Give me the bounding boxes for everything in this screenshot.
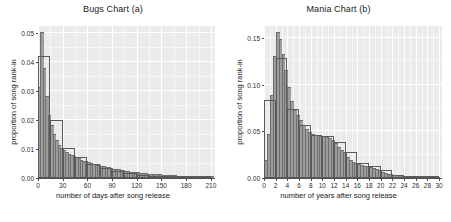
histogram-bar-outline [50,120,62,178]
x-tick-mark [112,179,113,181]
x-tick-mark [381,179,382,181]
histogram-bar-outline [299,125,311,178]
chart-title-mania: Mania Chart (b) [226,4,451,14]
chart-title-bugs: Bugs Chart (a) [0,4,226,14]
x-tick-label: 16 [354,182,361,189]
y-tick-mark [36,120,38,121]
histogram-bar-outline [369,166,381,178]
histogram-bar-outline [264,100,276,178]
x-tick-mark [322,179,323,181]
y-tick-mark [36,62,38,63]
x-tick-mark [392,179,393,181]
y-tick-mark [36,91,38,92]
x-tick-mark [287,179,288,181]
y-tick-label: 0.03 [21,88,34,95]
y-tick-label: 0.00 [21,175,34,182]
histogram-bar-outline [63,148,75,178]
x-tick-label: 2 [274,182,278,189]
histogram-bar-outline [311,135,323,178]
x-tick-mark [346,179,347,181]
x-tick-label: 180 [181,182,192,189]
histogram-bar-outline [75,157,87,178]
x-axis-title-mania: number of years after song release [226,191,451,200]
x-tick-label: 12 [330,182,337,189]
x-tick-mark [334,179,335,181]
y-axis-title-bugs: proportion of song rank-in [9,26,18,178]
x-tick-label: 22 [389,182,396,189]
histogram-bars-mania [264,26,442,178]
chart-panel-mania: Mania Chart (b) 0.000.050.100.15 0246810… [226,0,451,222]
x-tick-label: 6 [297,182,301,189]
x-tick-label: 210 [205,182,216,189]
x-tick-mark [276,179,277,181]
x-tick-label: 0 [36,182,40,189]
y-tick-label: 0.05 [21,30,34,37]
histogram-bar-outline [276,58,288,178]
histogram-bar-outline [112,171,124,178]
histogram-bar-outline [334,142,346,178]
y-tick-label: 0.01 [21,146,34,153]
x-tick-mark [416,179,417,181]
histogram-bars-bugs [38,26,215,178]
x-tick-label: 0 [262,182,266,189]
x-tick-mark [299,179,300,181]
x-tick-label: 14 [342,182,349,189]
x-tick-mark [186,179,187,181]
x-tick-label: 10 [319,182,326,189]
x-tick-mark [264,179,265,181]
x-tick-label: 28 [424,182,431,189]
figure-canvas: Bugs Chart (a) 0.000.010.020.030.040.05 … [0,0,451,222]
x-tick-mark [87,179,88,181]
x-tick-mark [404,179,405,181]
x-tick-label: 60 [84,182,91,189]
x-tick-mark [427,179,428,181]
y-tick-mark [262,131,264,132]
x-tick-mark [137,179,138,181]
x-tick-label: 24 [400,182,407,189]
y-tick-label: 0.15 [247,35,260,42]
x-tick-label: 30 [435,182,442,189]
histogram-bar-outline [87,164,99,178]
y-tick-mark [36,149,38,150]
y-axis-title-mania: proportion of song rank-in [235,26,244,178]
y-tick-mark [36,33,38,34]
y-tick-mark [262,38,264,39]
x-tick-mark [161,179,162,181]
histogram-bar-outline [38,56,50,178]
x-tick-label: 120 [131,182,142,189]
plot-area-bugs [38,26,215,178]
histogram-bar-outline [381,170,393,178]
chart-panel-bugs: Bugs Chart (a) 0.000.010.020.030.040.05 … [0,0,226,222]
x-tick-mark [439,179,440,181]
x-tick-mark [311,179,312,181]
y-tick-label: 0.00 [247,175,260,182]
x-tick-mark [63,179,64,181]
x-tick-label: 4 [286,182,290,189]
histogram-bar-outline [287,109,299,178]
histogram-bar-outline [346,152,358,178]
histogram-bar-outline [100,168,112,178]
y-tick-label: 0.10 [247,81,260,88]
histogram-bar-outline [322,136,334,178]
x-tick-label: 20 [377,182,384,189]
x-tick-label: 8 [309,182,313,189]
x-tick-mark [211,179,212,181]
x-axis-line [38,178,215,179]
x-tick-mark [357,179,358,181]
x-tick-mark [369,179,370,181]
plot-area-mania [264,26,442,178]
x-tick-mark [38,179,39,181]
y-tick-label: 0.02 [21,117,34,124]
x-axis-title-bugs: number of days after song release [0,191,226,200]
x-tick-label: 90 [108,182,115,189]
y-tick-label: 0.05 [247,128,260,135]
y-tick-label: 0.04 [21,59,34,66]
histogram-bar-outline [357,163,369,178]
x-tick-label: 26 [412,182,419,189]
y-tick-mark [262,85,264,86]
x-tick-label: 150 [156,182,167,189]
x-tick-label: 18 [365,182,372,189]
x-tick-label: 30 [59,182,66,189]
